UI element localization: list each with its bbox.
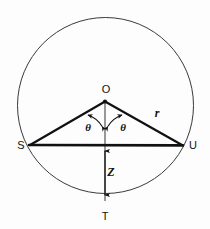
- segment-OU: [105, 102, 182, 146]
- angle-label-theta-right: θ: [120, 122, 126, 133]
- geometry-figure: O S U T r Z θ θ: [0, 0, 210, 229]
- radius-label: r: [155, 107, 160, 119]
- point-label-O: O: [102, 84, 111, 95]
- point-label-S: S: [17, 140, 24, 151]
- vertex-point-O: [103, 99, 107, 103]
- geometry-canvas: [0, 0, 210, 229]
- angle-label-theta-left: θ: [85, 122, 91, 133]
- segment-OS: [30, 102, 105, 146]
- point-label-U: U: [189, 140, 197, 151]
- sagitta-label: Z: [107, 166, 114, 178]
- point-label-T: T: [102, 211, 109, 222]
